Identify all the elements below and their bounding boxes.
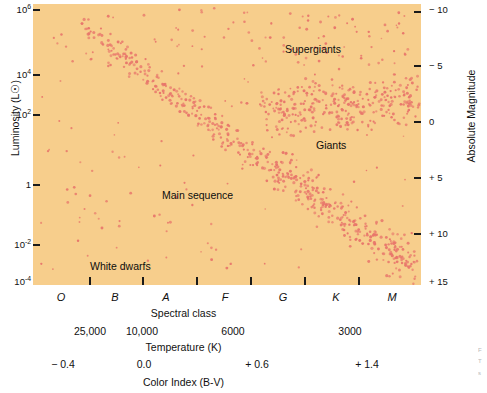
color-index-tick-label: + 1.4: [355, 359, 379, 370]
y-right-tick-mark: [414, 233, 421, 235]
spectral-tick-label: K: [332, 292, 339, 303]
edge-caption-line: F: [478, 345, 487, 356]
y-right-tick-mark: [414, 121, 421, 123]
y-tick-exponent: 2: [27, 108, 31, 115]
annotation-supergiants: Supergiants: [285, 44, 341, 55]
color-index-tick-label: 0.0: [137, 359, 152, 370]
edge-caption-line: T: [478, 356, 487, 367]
spectral-tick-label: F: [222, 292, 229, 303]
temperature-tick-label: 3000: [338, 326, 361, 337]
y-tick-mark: [33, 184, 40, 186]
y-right-tick-mark: [414, 11, 421, 13]
y-tick-exponent: 6: [27, 3, 31, 10]
y-tick-exponent: 4: [27, 68, 31, 75]
y-tick-mark: [33, 244, 40, 246]
y-tick-label: 106: [0, 5, 31, 15]
y-right-tick-label: − 5: [429, 61, 463, 71]
x-tick-mark: [304, 277, 306, 285]
scatter-points: [33, 4, 421, 285]
temperature-tick-label: 10,000: [126, 326, 158, 337]
y-tick-exponent: -4: [25, 275, 31, 282]
y-right-tick-label: − 10: [429, 5, 463, 15]
annotation-white-dwarfs: White dwarfs: [90, 261, 151, 272]
plot-area: Supergiants Giants Main sequence White d…: [33, 4, 421, 285]
y-tick-mark: [33, 9, 40, 11]
temperature-axis-title: Temperature (K): [0, 342, 427, 353]
color-index-axis-title: Color Index (B-V): [0, 377, 427, 388]
annotation-giants: Giants: [316, 140, 346, 151]
y-tick-mark: [33, 114, 40, 116]
spectral-tick-label: M: [387, 292, 396, 303]
y-axis-right-title: Absolute Magnitude: [465, 46, 477, 186]
edge-caption: F T s: [478, 345, 487, 379]
x-tick-mark: [89, 277, 91, 285]
x-tick-mark: [196, 277, 198, 285]
y-right-tick-label: 0: [429, 117, 463, 127]
y-right-tick-mark: [414, 177, 421, 179]
x-tick-mark: [358, 277, 360, 285]
spectral-tick-label: G: [279, 292, 288, 303]
y-right-tick-mark: [414, 65, 421, 67]
hr-diagram-figure: Supergiants Giants Main sequence White d…: [0, 0, 487, 393]
edge-caption-line: s: [478, 368, 487, 379]
temperature-tick-label: 25,000: [74, 326, 106, 337]
temperature-tick-label: 6000: [221, 326, 244, 337]
y-right-tick-label: + 10: [429, 229, 463, 239]
temperature-tick-row: 25,000 10,000 6000 3000: [0, 326, 487, 340]
spectral-tick-label: B: [111, 292, 118, 303]
color-index-tick-label: − 0.4: [51, 359, 75, 370]
x-tick-mark: [250, 277, 252, 285]
y-axis-title: Luminosity (L☉): [9, 58, 21, 178]
annotation-main-sequence: Main sequence: [162, 190, 233, 201]
y-right-tick-label: + 5: [429, 173, 463, 183]
y-tick-label: 10-2: [0, 240, 31, 250]
y-tick-exponent: -2: [25, 238, 31, 245]
color-index-tick-label: + 0.6: [245, 359, 269, 370]
spectral-tick-label: O: [57, 292, 66, 303]
spectral-class-tick-row: O B A F G K M: [0, 292, 487, 306]
color-index-tick-row: − 0.4 0.0 + 0.6 + 1.4: [0, 359, 487, 373]
spectral-class-axis-title: Spectral class: [0, 308, 427, 319]
y-tick-label: 10-4: [0, 277, 31, 287]
y-tick-mark: [33, 74, 40, 76]
y-right-tick-label: + 15: [429, 277, 463, 287]
y-tick-label: 1: [0, 180, 31, 190]
x-tick-mark: [142, 277, 144, 285]
spectral-tick-label: A: [162, 292, 169, 303]
